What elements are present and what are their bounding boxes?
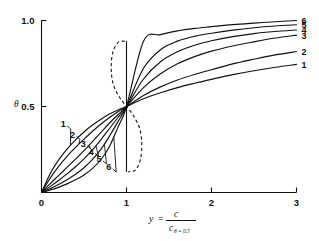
x-axis-ticks [127,188,297,193]
curve-label-right-2: 2 [302,47,307,57]
curve-label-right-3: 3 [302,31,307,41]
curve-5 [42,25,297,193]
curve-4 [42,30,297,193]
y-tick-label: 1.0 [21,15,34,26]
x-tick-label: 1 [124,197,130,208]
data-curves [42,21,297,193]
curve-label-leader-6 [113,137,117,172]
y-tick-label: 0.5 [21,101,35,112]
curve-label-leader-1 [67,126,71,145]
curve-label-right-1: 1 [302,60,307,70]
curve-label-leader-2 [77,136,81,144]
curve-labels-right: 654321 [302,16,307,70]
figure-root: 0.51.0 0123 654321 123456 θ y = c c θ = … [0,0,319,241]
x-axis-title: y = c c θ = 0.5 [148,209,196,234]
y-axis-ticks [42,21,47,107]
x-axis-title-numerator: c [174,209,179,219]
curve-6 [42,21,297,193]
x-axis-title-denominator-subscript: θ = 0.5 [174,228,190,234]
x-axis-title-equals: = [158,214,163,224]
curve-label-left-3: 3 [81,139,86,149]
x-tick-label: 2 [209,197,214,208]
y-tick-labels: 0.51.0 [21,15,35,112]
y-axis-title: θ [14,99,19,109]
x-tick-labels: 0123 [39,197,299,208]
x-axis-title-lead: y [148,214,154,224]
curve-label-left-4: 4 [89,147,94,157]
chart-svg: 0.51.0 0123 654321 123456 θ y = c c θ = … [0,0,319,241]
x-tick-label: 3 [294,197,299,208]
x-tick-label: 0 [39,197,44,208]
curve-label-left-1: 1 [61,119,66,129]
